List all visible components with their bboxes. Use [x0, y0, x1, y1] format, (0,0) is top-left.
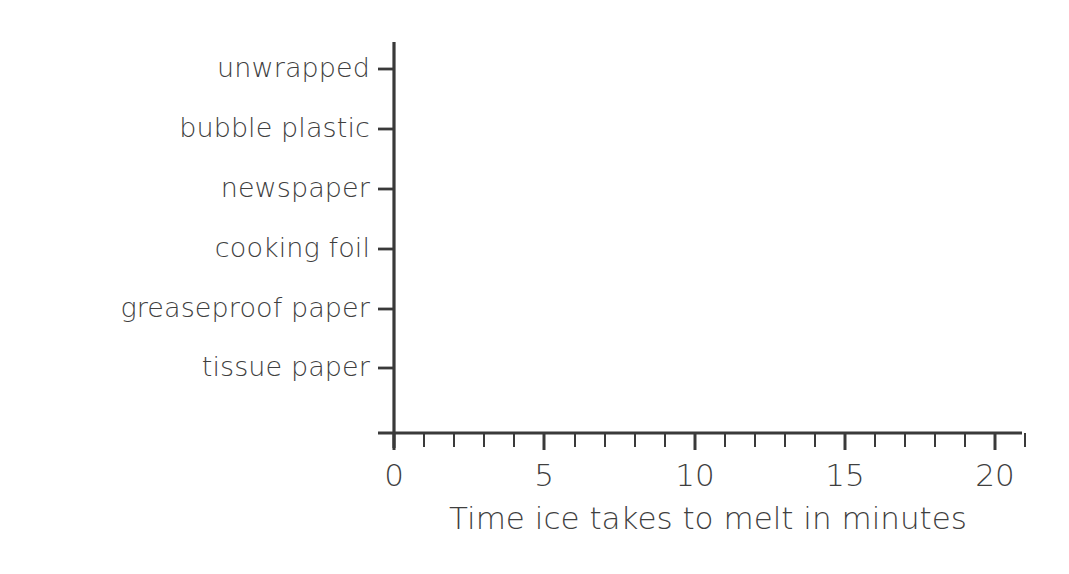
- y-label-newspaper: newspaper: [221, 172, 371, 203]
- y-label-bubble-plastic: bubble plastic: [179, 112, 370, 143]
- x-label-5: 5: [534, 457, 554, 493]
- y-label-cooking-foil: cooking foil: [215, 232, 370, 263]
- chart-container: unwrapped bubble plastic newspaper cooki…: [0, 0, 1069, 574]
- x-label-0: 0: [384, 457, 404, 493]
- chart-plot-area: unwrapped bubble plastic newspaper cooki…: [0, 0, 1069, 574]
- y-label-unwrapped: unwrapped: [217, 52, 370, 83]
- x-label-10: 10: [675, 457, 714, 493]
- x-label-15: 15: [825, 457, 864, 493]
- x-axis-minor-ticks: [424, 433, 1025, 447]
- y-label-tissue-paper: tissue paper: [202, 351, 371, 382]
- y-label-greaseproof-paper: greaseproof paper: [120, 292, 370, 323]
- x-axis-title: Time ice takes to melt in minutes: [449, 500, 967, 536]
- x-label-20: 20: [975, 457, 1014, 493]
